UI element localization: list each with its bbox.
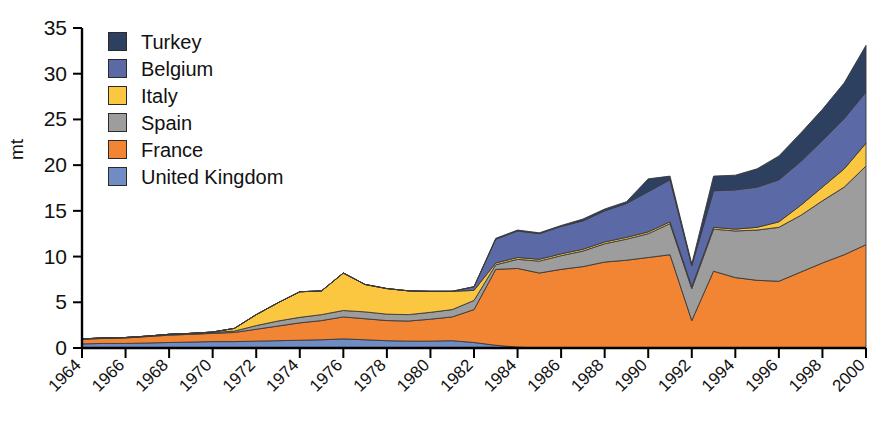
x-tick-label: 1978 bbox=[350, 355, 390, 395]
y-axis: 05101520253035 bbox=[44, 16, 82, 359]
x-tick-label: 1988 bbox=[567, 355, 607, 395]
legend-label: France bbox=[141, 140, 203, 160]
legend-label: Turkey bbox=[141, 32, 201, 52]
x-tick-label: 1974 bbox=[262, 355, 302, 395]
legend-label: United Kingdom bbox=[141, 167, 283, 187]
y-tick-label: 0 bbox=[55, 336, 67, 359]
legend-item: United Kingdom bbox=[108, 163, 283, 190]
x-tick-label: 1992 bbox=[654, 355, 694, 395]
legend-label: Spain bbox=[141, 113, 192, 133]
legend-item: Belgium bbox=[108, 55, 283, 82]
legend-swatch-icon bbox=[108, 167, 127, 186]
x-tick-label: 1986 bbox=[524, 355, 564, 395]
legend-item: Turkey bbox=[108, 28, 283, 55]
y-tick-label: 20 bbox=[44, 153, 67, 176]
x-tick-label: 1970 bbox=[175, 355, 215, 395]
chart-figure: mt 05101520253035 1964196619681970197219… bbox=[0, 0, 891, 432]
legend-item: Spain bbox=[108, 109, 283, 136]
x-tick-label: 1984 bbox=[480, 355, 520, 395]
y-tick-label: 35 bbox=[44, 16, 67, 39]
legend-swatch-icon bbox=[108, 59, 127, 78]
x-tick-label: 1980 bbox=[393, 355, 433, 395]
x-tick-label: 2000 bbox=[829, 355, 869, 395]
legend-item: Italy bbox=[108, 82, 283, 109]
y-tick-label: 30 bbox=[44, 62, 67, 85]
legend-swatch-icon bbox=[108, 32, 127, 51]
legend: TurkeyBelgiumItalySpainFranceUnited King… bbox=[108, 28, 283, 190]
y-tick-label: 25 bbox=[44, 107, 67, 130]
x-tick-label: 1964 bbox=[45, 355, 85, 395]
legend-label: Belgium bbox=[141, 59, 213, 79]
legend-swatch-icon bbox=[108, 86, 127, 105]
legend-swatch-icon bbox=[108, 140, 127, 159]
x-tick-label: 1994 bbox=[698, 355, 738, 395]
x-tick-label: 1990 bbox=[611, 355, 651, 395]
y-tick-label: 5 bbox=[55, 290, 67, 313]
legend-label: Italy bbox=[141, 86, 178, 106]
x-tick-label: 1966 bbox=[88, 355, 128, 395]
y-tick-label: 15 bbox=[44, 199, 67, 222]
y-tick-label: 10 bbox=[44, 245, 67, 268]
x-axis: 1964196619681970197219741976197819801982… bbox=[45, 348, 869, 396]
x-tick-label: 1972 bbox=[219, 355, 259, 395]
x-tick-label: 1996 bbox=[742, 355, 782, 395]
legend-swatch-icon bbox=[108, 113, 127, 132]
x-tick-label: 1976 bbox=[306, 355, 346, 395]
legend-item: France bbox=[108, 136, 283, 163]
x-tick-label: 1982 bbox=[437, 355, 477, 395]
x-tick-label: 1998 bbox=[785, 355, 825, 395]
x-tick-label: 1968 bbox=[132, 355, 172, 395]
